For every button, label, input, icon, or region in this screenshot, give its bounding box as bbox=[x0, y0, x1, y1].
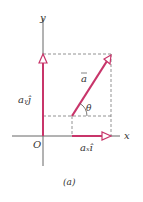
vector-components-diagram: y x O a θ aᵧĵ aₓî (a) bbox=[0, 0, 143, 202]
vector-a-label: a bbox=[81, 73, 87, 84]
dashed-guides bbox=[43, 54, 111, 136]
y-axis-label: y bbox=[39, 12, 46, 23]
y-component-arrowhead bbox=[39, 54, 47, 63]
figure-caption: (a) bbox=[63, 177, 76, 187]
x-axis-label: x bbox=[124, 130, 130, 141]
x-component-label: aₓî bbox=[80, 142, 94, 153]
y-component-label: aᵧĵ bbox=[18, 94, 32, 105]
origin-label: O bbox=[33, 139, 41, 150]
x-component-arrowhead bbox=[102, 132, 111, 140]
theta-label: θ bbox=[86, 103, 92, 113]
